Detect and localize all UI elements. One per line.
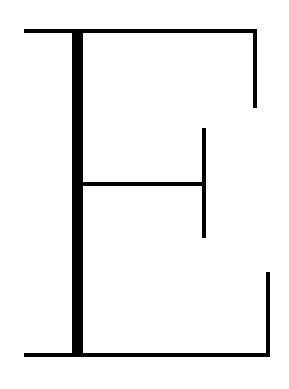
- main-stem-stroke: [72, 29, 83, 357]
- top-arm-terminal-vertical-stroke: [253, 29, 257, 108]
- top-arm-horizontal-stroke: [24, 29, 257, 33]
- bottom-arm-terminal-vertical-stroke: [266, 272, 270, 357]
- letter-e-drawing: [0, 0, 289, 389]
- canvas-background: [0, 0, 289, 389]
- bottom-arm-horizontal-stroke: [24, 353, 270, 357]
- middle-arm-terminal-vertical-stroke: [202, 128, 206, 238]
- middle-arm-horizontal-stroke: [82, 182, 206, 186]
- artboard: [0, 0, 289, 389]
